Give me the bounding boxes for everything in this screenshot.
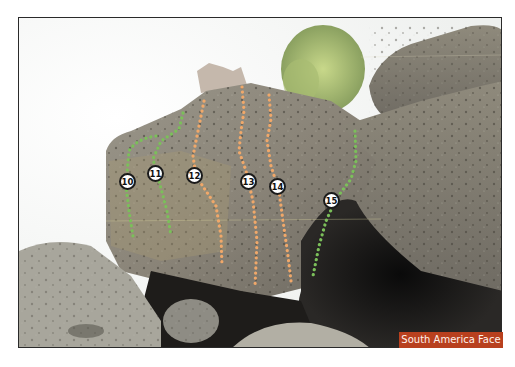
route-marker-14: 14 xyxy=(269,178,286,195)
route-marker-15: 15 xyxy=(323,192,340,209)
face-name-label: South America Face xyxy=(399,332,503,348)
route-marker-11: 11 xyxy=(147,165,164,182)
route-marker-13: 13 xyxy=(240,173,257,190)
boulder-photo: 10 11 12 13 14 15 xyxy=(18,17,502,348)
route-marker-10: 10 xyxy=(119,173,136,190)
route-marker-12: 12 xyxy=(186,167,203,184)
photo-illustration xyxy=(19,18,502,348)
